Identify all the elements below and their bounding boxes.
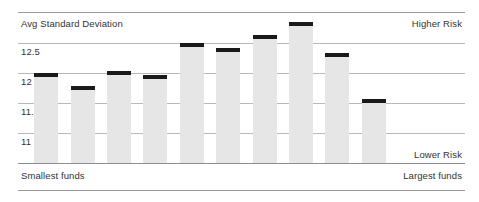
higher-risk-label: Higher Risk — [412, 18, 462, 29]
bar-7[interactable] — [253, 35, 277, 202]
bar-10[interactable] — [362, 99, 386, 202]
bar-body — [325, 53, 349, 163]
largest-funds-label: Largest funds — [403, 170, 462, 181]
bar-body — [253, 35, 277, 163]
bar-body — [362, 99, 386, 163]
bar-body — [71, 86, 95, 163]
bar-body — [107, 71, 131, 163]
bar-value-marker — [362, 99, 386, 103]
bar-4[interactable] — [143, 75, 167, 202]
bar-value-marker — [325, 53, 349, 57]
bar-value-marker — [180, 43, 204, 47]
bar-value-marker — [34, 73, 58, 77]
bar-6[interactable] — [216, 48, 240, 202]
bar-value-marker — [107, 71, 131, 75]
smallest-funds-label: Smallest funds — [21, 170, 85, 181]
bar-value-marker — [143, 75, 167, 79]
bar-value-marker — [216, 48, 240, 52]
bar-8[interactable] — [289, 22, 313, 202]
chart-title: Avg Standard Deviation — [21, 18, 123, 29]
bar-value-marker — [71, 86, 95, 90]
bar-body — [289, 22, 313, 163]
bar-body — [180, 43, 204, 163]
bar-1[interactable] — [34, 73, 58, 202]
bar-3[interactable] — [107, 71, 131, 202]
bar-value-marker — [289, 22, 313, 26]
bar-5[interactable] — [180, 43, 204, 202]
bar-body — [216, 48, 240, 163]
bar-body — [143, 75, 167, 163]
lower-risk-label: Lower Risk — [414, 149, 462, 160]
bar-body — [34, 73, 58, 163]
bar-value-marker — [253, 35, 277, 39]
chart-container: 12.5 12 11.5 11 Avg Standard Deviation H… — [0, 0, 479, 202]
bar-9[interactable] — [325, 53, 349, 202]
bar-2[interactable] — [71, 86, 95, 202]
